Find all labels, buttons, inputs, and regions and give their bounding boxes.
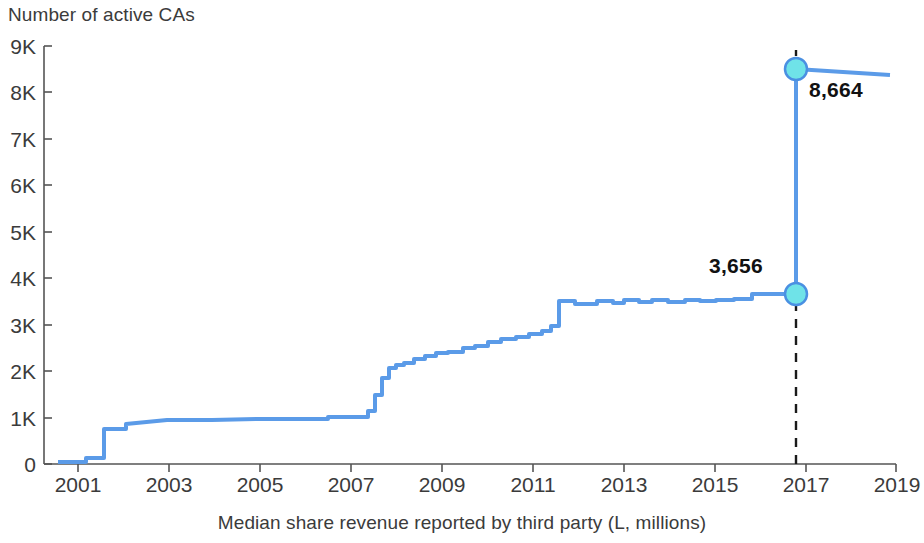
- x-axis-ticks: [78, 464, 896, 472]
- series-line-active-cas: [58, 69, 890, 462]
- data-marker-3656: [785, 283, 807, 305]
- y-axis-ticks: [44, 46, 52, 464]
- data-marker-8664: [785, 58, 807, 80]
- plot-area: [0, 0, 924, 543]
- chart-container: Number of active CAs 9K 8K 7K 6K 5K 4K 3…: [0, 0, 924, 543]
